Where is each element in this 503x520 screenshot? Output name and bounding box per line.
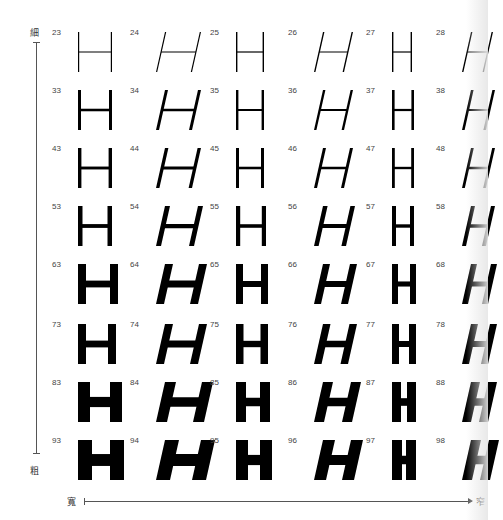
glyph-sample-84: 84 (130, 378, 206, 438)
style-number: 46 (288, 144, 297, 153)
glyph-sample-45: 45 (210, 144, 286, 204)
glyph-sample-47: 47 (366, 144, 442, 204)
style-number: 73 (52, 320, 61, 329)
style-number: 77 (366, 320, 375, 329)
glyph-sample-24: 24 (130, 28, 206, 88)
letter-h-icon (226, 144, 296, 196)
letter-h-icon (304, 378, 374, 430)
style-number: 47 (366, 144, 375, 153)
style-number: 58 (436, 202, 445, 211)
letter-h-icon (452, 28, 503, 80)
letter-h-icon (226, 28, 296, 80)
glyph-sample-44: 44 (130, 144, 206, 204)
style-number: 83 (52, 378, 61, 387)
glyph-sample-66: 66 (288, 260, 364, 320)
style-number: 68 (436, 260, 445, 269)
glyph-sample-38: 38 (436, 86, 503, 146)
glyph-sample-27: 27 (366, 28, 442, 88)
letter-h-icon (68, 202, 138, 254)
letter-h-icon (304, 260, 374, 312)
glyph-sample-43: 43 (52, 144, 128, 204)
letter-h-icon (226, 436, 296, 488)
style-number: 35 (210, 86, 219, 95)
glyph-sample-36: 36 (288, 86, 364, 146)
style-number: 23 (52, 28, 61, 37)
letter-h-icon (146, 86, 216, 138)
style-number: 98 (436, 436, 445, 445)
glyph-sample-86: 86 (288, 378, 364, 438)
letter-h-icon (68, 320, 138, 372)
axis-label-narrow: 窄 (476, 495, 485, 508)
glyph-sample-67: 67 (366, 260, 442, 320)
letter-h-icon (226, 260, 296, 312)
style-number: 86 (288, 378, 297, 387)
style-number: 95 (210, 436, 219, 445)
glyph-sample-65: 65 (210, 260, 286, 320)
glyph-sample-75: 75 (210, 320, 286, 380)
style-number: 97 (366, 436, 375, 445)
letter-h-icon (146, 436, 216, 488)
letter-h-icon (226, 86, 296, 138)
style-number: 63 (52, 260, 61, 269)
glyph-sample-37: 37 (366, 86, 442, 146)
glyph-sample-53: 53 (52, 202, 128, 262)
glyph-sample-28: 28 (436, 28, 503, 88)
glyph-sample-95: 95 (210, 436, 286, 496)
letter-h-icon (452, 436, 503, 488)
letter-h-icon (68, 378, 138, 430)
glyph-sample-97: 97 (366, 436, 442, 496)
glyph-sample-58: 58 (436, 202, 503, 262)
style-number: 78 (436, 320, 445, 329)
style-number: 94 (130, 436, 139, 445)
letter-h-icon (452, 144, 503, 196)
style-number: 37 (366, 86, 375, 95)
style-number: 44 (130, 144, 139, 153)
axis-tick (33, 453, 40, 454)
style-number: 74 (130, 320, 139, 329)
letter-h-icon (68, 28, 138, 80)
letter-h-icon (68, 144, 138, 196)
letter-h-icon (146, 144, 216, 196)
glyph-sample-96: 96 (288, 436, 364, 496)
glyph-sample-68: 68 (436, 260, 503, 320)
glyph-sample-54: 54 (130, 202, 206, 262)
style-number: 43 (52, 144, 61, 153)
style-number: 38 (436, 86, 445, 95)
letter-h-icon (68, 86, 138, 138)
letter-h-icon (304, 86, 374, 138)
letter-h-icon (304, 320, 374, 372)
style-number: 65 (210, 260, 219, 269)
style-number: 54 (130, 202, 139, 211)
letter-h-icon (304, 202, 374, 254)
glyph-sample-98: 98 (436, 436, 503, 496)
style-number: 84 (130, 378, 139, 387)
glyph-sample-48: 48 (436, 144, 503, 204)
glyph-sample-33: 33 (52, 86, 128, 146)
style-number: 66 (288, 260, 297, 269)
letter-h-icon (146, 202, 216, 254)
arrow-right-icon (468, 498, 473, 504)
glyph-sample-63: 63 (52, 260, 128, 320)
glyph-sample-78: 78 (436, 320, 503, 380)
axis-label-wide: 寬 (67, 495, 76, 508)
style-number: 64 (130, 260, 139, 269)
style-number: 67 (366, 260, 375, 269)
letter-h-icon (452, 86, 503, 138)
style-number: 55 (210, 202, 219, 211)
axis-label-light: 細 (30, 26, 39, 39)
style-number: 76 (288, 320, 297, 329)
glyph-sample-55: 55 (210, 202, 286, 262)
letter-h-icon (452, 202, 503, 254)
letter-h-icon (226, 378, 296, 430)
glyph-sample-23: 23 (52, 28, 128, 88)
letter-h-icon (68, 436, 138, 488)
letter-h-icon (146, 260, 216, 312)
style-number: 57 (366, 202, 375, 211)
style-number: 34 (130, 86, 139, 95)
axis-label-bold: 粗 (30, 464, 39, 477)
style-number: 26 (288, 28, 297, 37)
style-number: 45 (210, 144, 219, 153)
glyph-sample-83: 83 (52, 378, 128, 438)
letter-h-icon (304, 144, 374, 196)
letter-h-icon (452, 320, 503, 372)
